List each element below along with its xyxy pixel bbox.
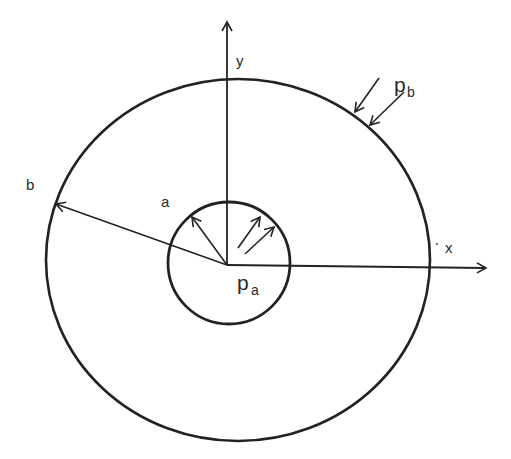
radius-b-label: b [26, 176, 34, 193]
outer-pressure-label: p b [394, 73, 415, 100]
inner-pressure-label: p a [237, 271, 259, 298]
svg-text:p: p [394, 73, 406, 96]
svg-text:b: b [407, 84, 415, 100]
y-axis-label: y [236, 52, 244, 69]
radius-b-arrow [56, 204, 227, 265]
svg-text:p: p [237, 271, 249, 294]
cylinder-diagram: y x a b p a p b [0, 0, 511, 459]
radius-a-arrow [192, 217, 227, 265]
inner-circle [168, 202, 290, 324]
outer-pressure-arrow-1 [355, 78, 379, 112]
svg-text:a: a [251, 282, 259, 298]
x-axis-dot [436, 243, 438, 245]
outer-circle [46, 79, 430, 441]
x-axis-label: x [445, 239, 453, 256]
x-axis [227, 265, 486, 268]
radius-a-label: a [161, 193, 170, 210]
outer-pressure-arrow-2 [370, 92, 404, 125]
